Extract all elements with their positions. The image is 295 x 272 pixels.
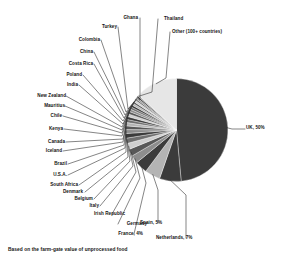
slice-label-belgium: Belgium xyxy=(75,197,93,202)
leader-line xyxy=(94,52,135,115)
slice-label-usa: U.S.A. xyxy=(53,173,67,178)
slice-label-ghana: Ghana xyxy=(123,16,138,21)
slice-label-uk: UK, 50% xyxy=(246,126,265,131)
leader-line xyxy=(227,128,245,129)
slice-label-spain: Spain, 5% xyxy=(140,221,162,226)
slice-label-india: India xyxy=(67,83,78,88)
slice-label-south-africa: South Africa xyxy=(50,183,78,188)
leader-line xyxy=(68,128,126,175)
slice-label-mauritius: Mauritius xyxy=(44,104,65,109)
leader-line xyxy=(170,180,186,238)
slice-label-denmark: Denmark xyxy=(63,190,83,195)
slice-label-canada: Canada xyxy=(48,140,65,145)
slice-label-iceland: Iceland xyxy=(46,149,62,154)
slice-label-other: Other (100+ countries) xyxy=(172,30,222,35)
slice-label-turkey: Turkey xyxy=(102,25,117,30)
slice-label-chile: Chile xyxy=(51,114,62,119)
pie-chart-svg xyxy=(0,0,295,272)
chart-caption: Based on the farm-gate value of unproces… xyxy=(8,247,128,252)
pie-slices-group xyxy=(125,79,228,182)
slice-label-italy: Italy xyxy=(90,204,99,209)
slice-label-kenya: Kenya xyxy=(49,127,63,132)
slice-label-france: France, 4% xyxy=(118,232,143,237)
leader-line xyxy=(138,18,140,100)
pie-chart-figure: UK, 50% Other (100+ countries) Thailand … xyxy=(0,0,295,272)
slice-label-brazil: Brazil xyxy=(54,162,67,167)
leader-line xyxy=(153,175,158,223)
slice-label-poland: Poland xyxy=(66,73,82,78)
leader-line xyxy=(66,118,127,142)
leader-line xyxy=(79,132,126,185)
slice-label-thailand: Thailand xyxy=(164,17,183,22)
slice-label-china: China xyxy=(80,50,93,55)
leader-line xyxy=(112,152,136,214)
leader-line xyxy=(156,32,170,84)
pie-slice xyxy=(177,79,228,182)
slice-label-netherlands: Netherlands, 7% xyxy=(156,236,193,241)
slice-label-irish-republic: Irish Republic xyxy=(94,212,125,217)
slice-label-new-zealand: New Zealand xyxy=(37,94,66,99)
slice-label-costa-rica: Costa Rica xyxy=(69,62,93,67)
slice-label-colombia: Colombia xyxy=(79,38,100,43)
